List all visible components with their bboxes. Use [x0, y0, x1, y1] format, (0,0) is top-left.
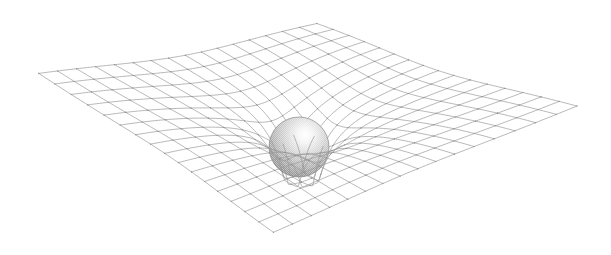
grid-node	[556, 114, 557, 115]
grid-node	[269, 152, 270, 153]
grid-node	[151, 60, 152, 61]
grid-node	[349, 182, 350, 183]
grid-node	[288, 159, 289, 160]
grid-node	[201, 51, 202, 52]
grid-node	[187, 69, 188, 70]
grid-node	[375, 136, 376, 137]
grid-node	[104, 115, 105, 116]
grid-node	[320, 174, 321, 175]
grid-node	[342, 61, 343, 62]
grid-node	[229, 142, 230, 143]
grid-node	[170, 71, 171, 72]
grid-node	[256, 176, 257, 177]
grid-node	[255, 139, 256, 140]
grid-node	[265, 146, 266, 147]
grid-node	[401, 73, 402, 74]
grid-node	[355, 69, 356, 70]
grid-node	[359, 143, 360, 144]
grid-node	[152, 73, 153, 74]
grid-node	[279, 158, 280, 159]
grid-node	[169, 108, 170, 109]
grid-node	[256, 104, 257, 105]
grid-node	[497, 113, 498, 114]
grid-node	[360, 54, 361, 55]
grid-node	[423, 97, 424, 98]
grid-node	[382, 168, 383, 169]
grid-node	[348, 127, 349, 128]
grid-node	[185, 55, 186, 56]
grid-node	[199, 157, 200, 158]
grid-node	[535, 122, 536, 123]
grid-node	[231, 201, 232, 202]
grid-node	[475, 121, 476, 122]
grid-node	[310, 185, 311, 186]
grid-node	[319, 161, 320, 162]
grid-node	[284, 152, 285, 153]
grid-node	[74, 81, 75, 82]
grid-node	[210, 107, 211, 108]
grid-node	[263, 203, 264, 204]
grid-node	[346, 148, 347, 149]
grid-node	[344, 140, 345, 141]
grid-node	[250, 193, 251, 194]
grid-node	[152, 86, 153, 87]
grid-node	[559, 101, 560, 102]
grid-node	[303, 172, 304, 173]
grid-node	[333, 152, 334, 153]
grid-node	[321, 87, 322, 88]
grid-node	[332, 97, 333, 98]
grid-node	[294, 86, 295, 87]
grid-node	[414, 121, 415, 122]
grid-node	[209, 95, 210, 96]
grid-node	[342, 104, 343, 105]
grid-node	[219, 62, 220, 63]
grid-node	[108, 102, 109, 103]
grid-node	[309, 160, 310, 161]
grid-node	[150, 144, 151, 145]
grid-node	[297, 52, 298, 53]
grid-node	[365, 175, 366, 176]
grid-node	[249, 53, 250, 54]
grid-node	[190, 83, 191, 84]
grid-node	[423, 65, 424, 66]
grid-node	[71, 94, 72, 95]
grid-node	[243, 107, 244, 108]
grid-node	[172, 97, 173, 98]
grid-node	[180, 128, 181, 129]
grid-node	[306, 159, 307, 160]
grid-node	[232, 160, 233, 161]
grid-node	[291, 184, 292, 185]
grid-node	[299, 27, 300, 28]
grid-node	[208, 144, 209, 145]
grid-node	[158, 131, 159, 132]
grid-node	[379, 47, 380, 48]
grid-node	[190, 107, 191, 108]
grid-node	[302, 165, 303, 166]
grid-node	[362, 150, 363, 151]
grid-node	[417, 168, 418, 169]
grid-node	[401, 107, 402, 108]
grid-node	[408, 59, 409, 60]
grid-node	[514, 130, 515, 131]
grid-node	[234, 58, 235, 59]
grid-node	[377, 145, 378, 146]
grid-node	[294, 155, 295, 156]
grid-node	[254, 86, 255, 87]
grid-node	[470, 79, 471, 80]
grid-node	[398, 161, 399, 162]
grid-node	[212, 165, 213, 166]
grid-node	[576, 106, 577, 107]
grid-node	[416, 154, 417, 155]
grid-node	[474, 133, 475, 134]
grid-node	[373, 99, 374, 100]
grid-node	[54, 83, 55, 84]
grid-node	[388, 67, 389, 68]
grid-node	[522, 92, 523, 93]
grid-node	[269, 100, 270, 101]
grid-node	[217, 48, 218, 49]
spacetime-scene	[0, 0, 611, 255]
grid-node	[331, 40, 332, 41]
grid-node	[237, 74, 238, 75]
grid-node	[433, 124, 434, 125]
grid-node	[252, 155, 253, 156]
